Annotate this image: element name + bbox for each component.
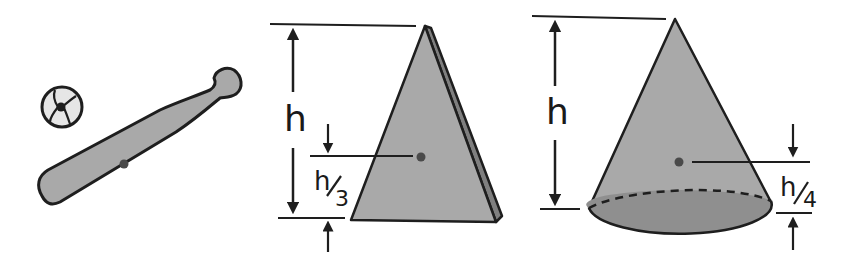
svg-text:h: h: [314, 166, 330, 196]
offset-fraction-label: h 4: [780, 172, 817, 212]
center-of-mass-diagram: h h 3 h h: [0, 0, 850, 272]
baseball-icon: [42, 87, 82, 127]
svg-text:4: 4: [803, 187, 817, 212]
center-of-mass-dot: [675, 158, 684, 167]
svg-text:h: h: [780, 172, 796, 202]
triangular-plate-icon: h h 3: [270, 24, 502, 252]
offset-fraction-label: h 3: [314, 166, 349, 211]
cone-icon: h h 4: [532, 16, 817, 250]
svg-text:3: 3: [335, 186, 349, 211]
height-label: h: [546, 91, 569, 132]
center-of-mass-dot: [417, 153, 426, 162]
center-of-mass-dot: [120, 160, 129, 169]
height-label: h: [284, 98, 307, 139]
